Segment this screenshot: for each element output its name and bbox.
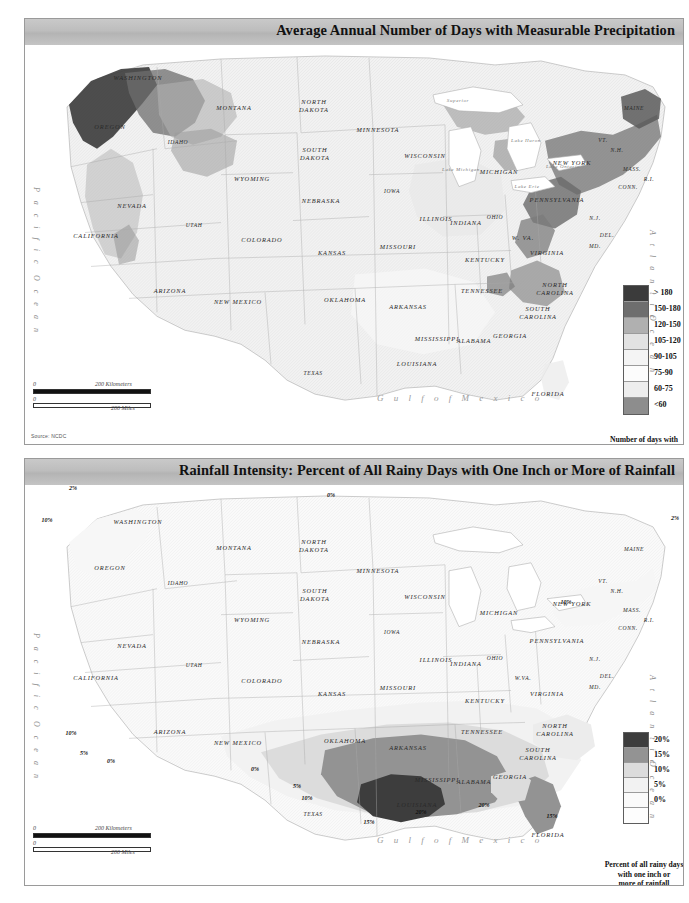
state-label: MISSOURI xyxy=(380,243,416,250)
state-label: DEL. xyxy=(600,673,614,679)
state-label: GEORGIA xyxy=(493,773,527,780)
state-label: INDIANA xyxy=(450,219,482,226)
contour-value-label: 2% xyxy=(671,515,679,521)
map-canvas-top: P a c i f i c O c e a n A t l a n t i c … xyxy=(25,45,683,444)
state-label: TENNESSEE xyxy=(461,728,503,735)
legend-swatch xyxy=(624,778,648,793)
state-label: PENNSYLVANIA xyxy=(530,637,585,644)
legend-band-label: 120-150 xyxy=(654,317,681,333)
state-label: W. VA. xyxy=(512,234,534,241)
state-label: OKLAHOMA xyxy=(324,737,366,744)
scale-unit-km-bottom: 200 Kilometers xyxy=(95,825,132,831)
state-label: MD. xyxy=(589,243,601,249)
state-label: FLORIDA xyxy=(532,831,565,838)
state-label: VIRGINIA xyxy=(530,249,564,256)
legend-band-label: 10% xyxy=(654,762,670,777)
state-label: COLORADO xyxy=(241,677,282,684)
legend-band-label: 90-105 xyxy=(654,349,681,365)
state-label: ARIZONA xyxy=(154,728,187,735)
legend-labels-top: > 180150-180120-150105-12090-10575-9060-… xyxy=(654,285,681,413)
lake-label: Superior xyxy=(447,98,469,103)
legend-swatch xyxy=(624,334,648,350)
contour-value-label: 2% xyxy=(69,485,77,491)
contour-value-label: 0% xyxy=(251,766,259,772)
state-label: KANSAS xyxy=(318,690,346,697)
legend-swatch xyxy=(624,733,648,748)
state-label: KANSAS xyxy=(318,249,346,256)
state-label: N.J. xyxy=(589,656,600,662)
legend-caption-top: Number of days with measurable precipita… xyxy=(591,435,683,444)
state-label: PENNSYLVANIA xyxy=(530,196,585,203)
source-note-top: Source: NCDC xyxy=(31,433,66,439)
state-label: MICHIGAN xyxy=(480,168,518,175)
state-label: GEORGIA xyxy=(493,332,527,339)
contour-value-label: 0% xyxy=(96,485,104,486)
state-label: MISSISSIPPI xyxy=(415,776,459,783)
scale-unit-mi-top: 200 Miles xyxy=(111,405,135,411)
state-label: MINNESOTA xyxy=(357,126,400,133)
scale-zero-km-bottom: 0 xyxy=(33,825,36,831)
state-label: OHIO xyxy=(487,214,503,220)
state-label: UTAH xyxy=(186,222,203,228)
state-label: ALABAMA xyxy=(457,778,492,785)
state-label: ARIZONA xyxy=(154,287,187,294)
contour-value-label: 20% xyxy=(479,802,490,808)
lake-label: Lake Erie xyxy=(515,184,540,189)
state-label: IDAHO xyxy=(168,139,188,145)
map-canvas-bottom: P a c i f i c O c e a n A t l a n t i c … xyxy=(25,485,683,885)
state-label: ILLINOIS xyxy=(420,215,453,222)
state-label: MAINE xyxy=(624,105,644,111)
legend-labels-bottom: 20%15%10%5%0% xyxy=(654,732,670,822)
state-label: NEBRASKA xyxy=(302,197,340,204)
scale-bar-km-bottom xyxy=(33,833,151,838)
state-label: MONTANA xyxy=(216,104,252,111)
contour-value-label: 15% xyxy=(364,819,375,825)
pacific-ocean-label: P a c i f i c xyxy=(31,187,42,267)
contour-value-label: 10% xyxy=(561,599,572,605)
state-label: MINNESOTA xyxy=(357,567,400,574)
legend-swatch xyxy=(624,350,648,366)
state-label: DEL. xyxy=(600,232,614,238)
state-label: ALABAMA xyxy=(457,337,492,344)
state-label: MASS. xyxy=(623,166,641,172)
legend-swatch xyxy=(624,302,648,318)
legend-band-label: <60 xyxy=(654,397,681,413)
state-label: OKLAHOMA xyxy=(324,296,366,303)
legend-swatch xyxy=(624,808,648,823)
state-label: WASHINGTON xyxy=(114,74,163,81)
pacific-ocean-word: O c e a n xyxy=(31,275,42,335)
state-label: R.I. xyxy=(644,176,654,182)
pacific-ocean-label-bottom: P a c i f i c xyxy=(31,633,42,713)
contour-value-label: 15% xyxy=(547,813,558,819)
lake-label: Lake Huron xyxy=(511,138,541,143)
legend-swatch xyxy=(624,382,648,398)
scale-zero-mi-bottom: 0 xyxy=(33,840,36,846)
legend-swatches-top xyxy=(623,285,649,415)
state-label: WISCONSIN xyxy=(404,593,445,600)
state-label: SOUTH DAKOTA xyxy=(300,587,330,602)
state-label: SOUTH CAROLINA xyxy=(519,746,557,761)
state-label: MD. xyxy=(589,684,601,690)
scale-bar-km-top xyxy=(33,389,151,394)
legend-band-label: 5% xyxy=(654,777,670,792)
state-label: LOUISIANA xyxy=(397,360,437,367)
state-label: N.H. xyxy=(611,147,624,153)
scale-unit-km-top: 200 Kilometers xyxy=(95,381,132,387)
state-label: NORTH DAKOTA xyxy=(299,538,329,553)
state-label: MISSOURI xyxy=(380,684,416,691)
contour-value-label: 5% xyxy=(293,783,301,789)
state-label: MICHIGAN xyxy=(480,609,518,616)
state-label: OREGON xyxy=(94,564,125,571)
legend-band-label: > 180 xyxy=(654,285,681,301)
legend-swatch xyxy=(624,366,648,382)
contour-value-label: 0% xyxy=(327,492,335,498)
state-label: W.VA. xyxy=(515,675,531,681)
state-label: MASS. xyxy=(623,607,641,613)
legend-band-label xyxy=(654,807,670,822)
state-label: TENNESSEE xyxy=(461,287,503,294)
state-label: ARKANSAS xyxy=(389,744,427,751)
state-label: INDIANA xyxy=(450,660,482,667)
contour-value-label: 5% xyxy=(80,750,88,756)
state-label: NORTH DAKOTA xyxy=(299,98,329,113)
state-label: VT. xyxy=(598,578,607,584)
